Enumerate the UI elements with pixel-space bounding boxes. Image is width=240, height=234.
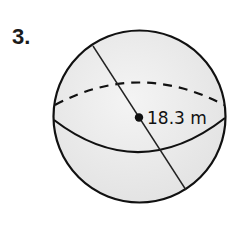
- sphere-figure: 18.3 m: [0, 0, 240, 234]
- diameter-label: 18.3 m: [147, 108, 207, 128]
- center-point: [135, 113, 143, 121]
